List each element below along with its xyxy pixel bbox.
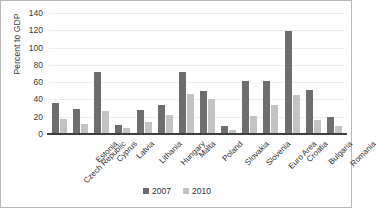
legend-label: 2010	[192, 186, 211, 196]
bar-group	[176, 13, 197, 134]
bar-group	[70, 13, 91, 134]
bar-group	[112, 13, 133, 134]
bar-group	[303, 13, 324, 134]
bar-2007	[73, 109, 80, 134]
bar-2007	[263, 81, 270, 134]
bar-group	[324, 13, 345, 134]
bar-2007	[52, 103, 59, 134]
bar-2007	[200, 91, 207, 134]
bar-2007	[242, 81, 249, 134]
plot-area	[49, 13, 345, 134]
y-axis-tick-label: 100	[3, 44, 43, 53]
bar-2010	[187, 94, 194, 134]
bar-2007	[137, 110, 144, 134]
bar-2007	[158, 105, 165, 134]
legend-swatch-icon	[143, 188, 149, 194]
chart-legend: 20072010	[1, 186, 353, 196]
legend-swatch-icon	[183, 188, 189, 194]
x-axis-category-labels: Czech RepublicEstoniaCyprusLatviaLithani…	[1, 134, 353, 182]
bar-group	[282, 13, 303, 134]
x-axis-label: Poland	[221, 140, 244, 163]
bar-group	[218, 13, 239, 134]
y-axis-tick-label: 20	[3, 113, 43, 122]
x-axis-label: Romania	[350, 140, 378, 168]
y-axis-tick-label: 120	[3, 26, 43, 35]
bar-2007	[327, 117, 334, 134]
bar-2010	[166, 115, 173, 134]
bar-2010	[102, 111, 109, 134]
legend-item: 2010	[183, 186, 211, 196]
bar-2010	[271, 105, 278, 134]
bar-2007	[306, 90, 313, 134]
bar-2010	[293, 95, 300, 134]
bar-2007	[94, 72, 101, 134]
y-axis-tick-label: 60	[3, 78, 43, 87]
bar-2010	[60, 119, 67, 134]
bar-2007	[285, 31, 292, 134]
legend-label: 2007	[152, 186, 171, 196]
bar-group	[155, 13, 176, 134]
bar-group	[239, 13, 260, 134]
bar-group	[49, 13, 70, 134]
bar-group	[134, 13, 155, 134]
y-axis-tick-label: 80	[3, 61, 43, 70]
bar-group	[197, 13, 218, 134]
bar-2010	[208, 99, 215, 134]
legend-item: 2007	[143, 186, 171, 196]
x-axis-label: Latvia	[135, 140, 156, 161]
y-axis-tick-label: 40	[3, 95, 43, 104]
bar-2010	[250, 116, 257, 134]
bar-2010	[314, 120, 321, 134]
bar-group	[91, 13, 112, 134]
bar-2007	[179, 72, 186, 134]
bar-group	[260, 13, 281, 134]
y-axis-tick-label: 140	[3, 9, 43, 18]
